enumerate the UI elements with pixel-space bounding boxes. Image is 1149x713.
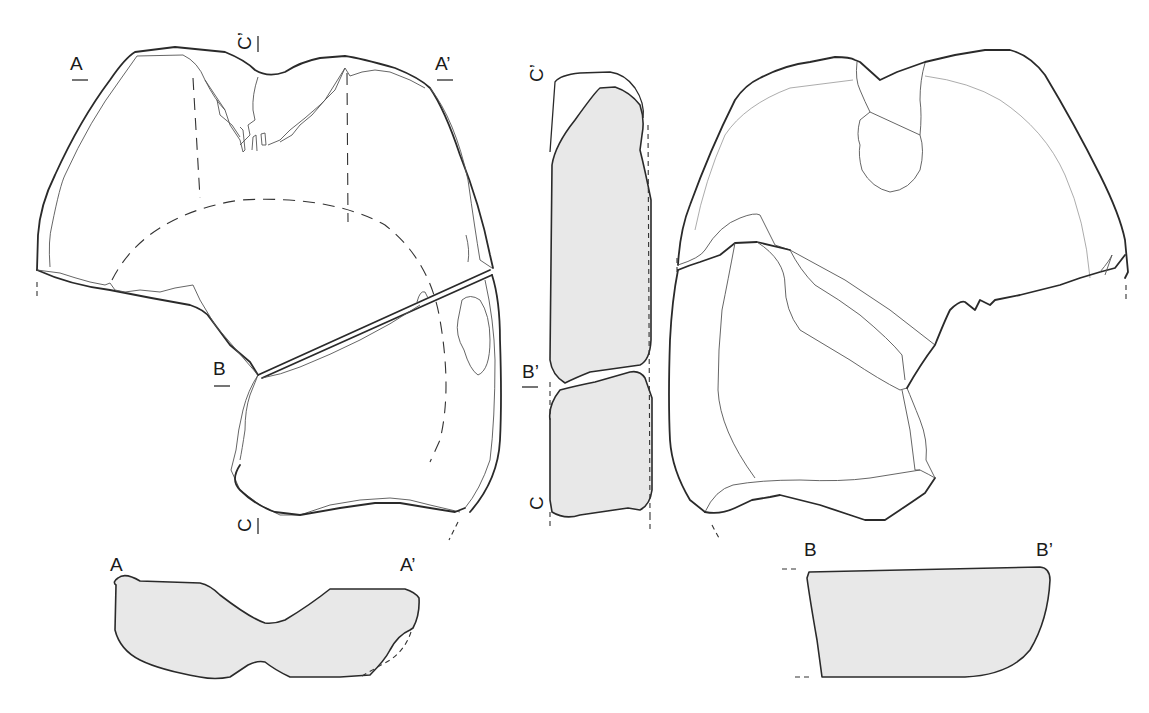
label-front-A-prime: A’ (435, 53, 450, 74)
cross-section-A: A A’ (110, 554, 419, 679)
label-front-B: B (213, 358, 226, 379)
artifact-drawing: A A’ B C’ C C’ B’ C (0, 0, 1149, 713)
label-front-C-prime: C’ (234, 32, 255, 50)
side-view-labels: C’ B’ C (522, 64, 547, 510)
label-section-B-start: B (804, 539, 817, 560)
label-side-C: C (526, 496, 547, 510)
label-front-A: A (70, 53, 83, 74)
front-view-labels: A A’ B C’ C (70, 32, 453, 534)
label-section-A-end: A’ (400, 554, 415, 575)
label-side-B-prime: B’ (522, 361, 539, 382)
label-section-A-start: A (110, 554, 123, 575)
label-section-B-end: B’ (1036, 539, 1053, 560)
back-view (669, 50, 1128, 540)
label-front-C: C (234, 518, 255, 532)
side-section-view (550, 72, 652, 530)
cross-section-B: B B’ (782, 539, 1053, 677)
front-view (37, 47, 501, 540)
label-side-C-prime: C’ (526, 64, 547, 82)
